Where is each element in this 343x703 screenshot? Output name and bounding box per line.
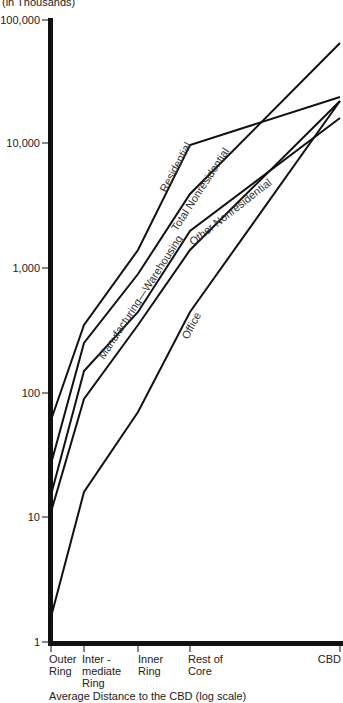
x-tick-rest-1: Rest of [188,653,224,665]
x-tick-rest-2: Core [188,665,212,677]
series-other-nonresidential [51,118,340,495]
y-tick-100000: 100,000 [0,14,40,26]
x-tick-outer-2: Ring [49,665,72,677]
y-tick-1: 1 [34,636,40,648]
x-tick-inter-3: Ring [82,677,105,689]
y-tick-100: 100 [22,387,40,399]
x-tick-inter-2: mediate [82,665,121,677]
x-axis [48,641,343,646]
x-axis-label: Average Distance to the CBD (log scale) [49,690,246,702]
x-tick-inter-1: Inter - [82,653,111,665]
x-tick-inner-2: Ring [138,665,161,677]
label-manufacturing-warehousing: Manufacturing—Warehousing [96,233,185,361]
y-ticks: 100,000 10,000 1,000 100 10 1 [0,14,48,648]
x-ticks: Outer Ring Inter - mediate Ring Inner Ri… [49,646,341,689]
label-residential: Residential [157,140,193,194]
series-total-nonresidential [51,43,340,464]
y-tick-10: 10 [28,511,40,523]
y-axis [48,18,53,646]
chart: (in Thousands) 100,000 10,000 1,000 100 … [0,0,343,703]
y-axis-label: (in Thousands) [2,0,75,8]
x-tick-inner-1: Inner [138,653,163,665]
y-tick-1000: 1,000 [12,262,40,274]
x-tick-cbd: CBD [318,653,341,665]
x-tick-outer-1: Outer [49,653,77,665]
y-tick-10000: 10,000 [6,137,40,149]
